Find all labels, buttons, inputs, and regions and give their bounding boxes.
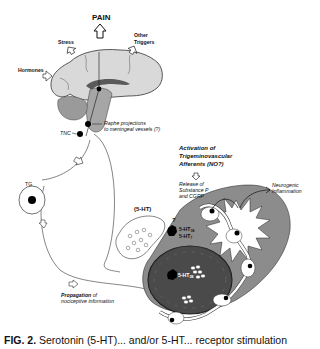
diagram-canvas	[0, 0, 320, 349]
pain-label: PAIN	[92, 14, 111, 22]
nerve-fiber-outer	[94, 134, 120, 272]
propagation-arrow-icon-3	[69, 280, 78, 288]
pain-arrow-icon	[94, 24, 106, 38]
nerve-fiber-upper	[42, 140, 90, 180]
hormones-arrow-icon	[43, 71, 52, 81]
raphe-dot	[85, 121, 91, 127]
propagation-label-2: nociceptive information	[61, 299, 114, 304]
release-arrow-icon	[192, 173, 200, 180]
neurogenic-label-2: Inflammation	[272, 189, 302, 194]
other-triggers-label-1: Other	[134, 33, 148, 38]
tnc-dot	[77, 131, 83, 137]
activation-label-2: Trigeminovascular	[179, 153, 232, 159]
cerebellum	[58, 96, 88, 120]
activation-label-3: Afferents (NO?)	[179, 161, 224, 167]
thalamus-dot	[97, 87, 102, 92]
stress-label: Stress	[58, 40, 74, 45]
hormones-label: Hormones	[18, 68, 44, 73]
tg-nucleus	[28, 196, 36, 204]
receptor-5ht7-label: 5-HT7	[179, 234, 192, 240]
tg-label: TG	[25, 182, 32, 187]
serotonin-label: (5-HT)	[134, 206, 151, 212]
tnc-label: TNC	[60, 131, 71, 136]
receptor-5ht2b-label: 5-HT2B	[178, 273, 194, 279]
activation-label-1: Activation of	[179, 145, 215, 151]
other-triggers-label-2: Triggers	[134, 40, 154, 45]
raphe-label-2: to meningeal vessels (?)	[104, 127, 160, 132]
propagation-arrow-icon-2	[39, 220, 47, 228]
release-label-3: and CGRP	[179, 194, 204, 199]
question-mark: ?	[172, 217, 176, 223]
figure-caption: FIG. 2. Serotonin (5-HT)... and/or 5-HT.…	[4, 334, 287, 346]
stress-arrow-icon	[65, 44, 78, 56]
